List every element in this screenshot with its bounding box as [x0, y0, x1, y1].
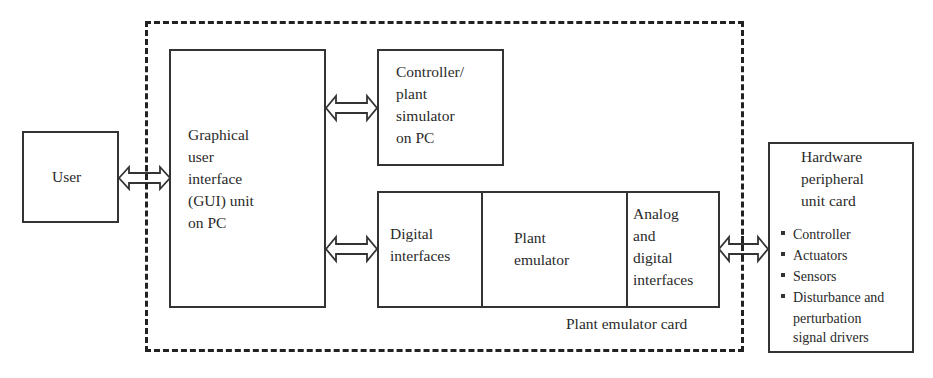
arrow-user-gui [119, 167, 170, 189]
connection-arrows [0, 0, 933, 378]
arrow-gui-digital [326, 237, 377, 261]
arrow-gui-controller [326, 96, 377, 120]
